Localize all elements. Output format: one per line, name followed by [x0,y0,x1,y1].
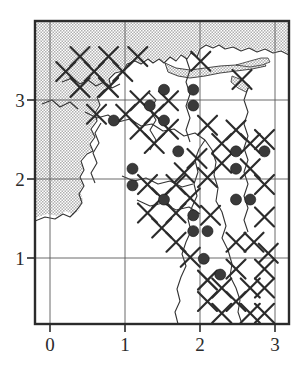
record-dot [198,253,209,264]
record-dot [108,115,119,126]
y-tick-label-1: 1 [15,248,25,269]
map-canvas: 0 1 2 3 1 2 3 [0,0,303,375]
record-dot [215,269,226,280]
sea-shading [35,21,289,324]
record-dot [259,146,270,157]
record-dot [188,100,199,111]
x-tick-label-2: 2 [195,334,205,355]
x-tick-label-0: 0 [45,334,55,355]
x-tick-label-1: 1 [120,334,130,355]
record-dot [231,163,242,174]
record-dot [245,194,256,205]
record-dot [231,194,242,205]
record-dot [159,194,170,205]
y-axis-labels: 1 2 3 [15,90,25,269]
y-tick-label-3: 3 [15,90,25,111]
record-dot [173,146,184,157]
y-tick-label-2: 2 [15,169,25,190]
record-dot [159,115,170,126]
record-dot [188,84,199,95]
record-dot [188,210,199,221]
record-dot [188,226,199,237]
record-dot [144,100,155,111]
record-dot [127,163,138,174]
distribution-map-figure: 0 1 2 3 1 2 3 [0,0,303,375]
record-dot [127,180,138,191]
x-tick-label-3: 3 [270,334,280,355]
record-dot [231,146,242,157]
record-dot [202,226,213,237]
record-dot [159,84,170,95]
x-axis-labels: 0 1 2 3 [45,334,280,355]
